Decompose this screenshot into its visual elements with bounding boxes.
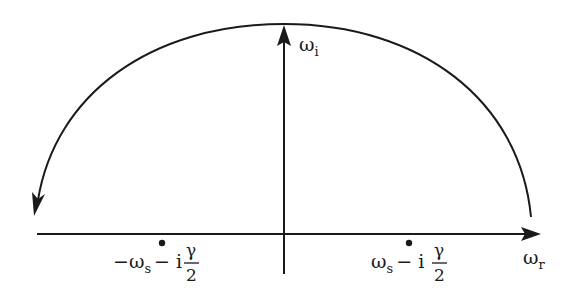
left-pole-label: −ωs− i γ 2 <box>113 240 199 285</box>
svg-text:γ: γ <box>186 240 196 260</box>
svg-text:γ: γ <box>434 240 444 260</box>
right-pole-label: ωs− i γ 2 <box>371 240 447 285</box>
svg-text:2: 2 <box>434 265 445 285</box>
right-pole-dot <box>406 240 412 246</box>
svg-text:−ωs− i: −ωs− i <box>113 250 182 276</box>
left-pole-dot <box>159 240 165 246</box>
real-axis-label: ωr <box>523 246 546 272</box>
contour-diagram: ωi ωr −ωs− i γ 2 ωs− i γ 2 <box>0 0 568 298</box>
svg-text:2: 2 <box>186 265 197 285</box>
svg-text:ωs− i: ωs− i <box>371 250 424 276</box>
imaginary-axis-label: ωi <box>299 33 319 59</box>
